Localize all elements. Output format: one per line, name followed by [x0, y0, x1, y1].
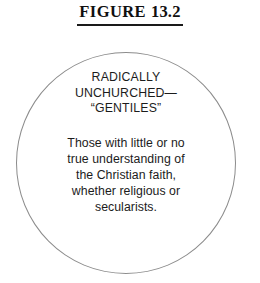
figure-title: FIGURE13.2: [0, 4, 260, 26]
figure-page: FIGURE13.2 RADICALLY UNCHURCHED— “GENTIL…: [0, 0, 260, 283]
figure-number: 13.2: [151, 2, 181, 21]
circle-heading-line: RADICALLY: [31, 70, 221, 86]
circle-body: Those with little or no true understandi…: [26, 135, 226, 215]
circle-heading-line: UNCHURCHED—: [31, 86, 221, 102]
circle-content: RADICALLY UNCHURCHED— “GENTILES” Those w…: [16, 52, 236, 274]
circle-heading: RADICALLY UNCHURCHED— “GENTILES”: [31, 70, 221, 117]
circle-body-line: Those with little or no: [26, 135, 226, 151]
figure-title-underline: FIGURE13.2: [77, 4, 182, 26]
circle-heading-line: “GENTILES”: [31, 101, 221, 117]
circle-body-line: the Christian faith,: [26, 167, 226, 183]
circle-body-line: whether religious or: [26, 183, 226, 199]
circle-body-line: secularists.: [26, 199, 226, 215]
figure-label: FIGURE: [79, 2, 146, 21]
circle-body-line: true understanding of: [26, 151, 226, 167]
